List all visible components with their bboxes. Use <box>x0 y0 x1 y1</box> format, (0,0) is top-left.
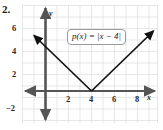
x-tick-4: 4 <box>89 95 93 104</box>
x-tick-6: 6 <box>112 95 116 104</box>
x-tick-8: 8 <box>135 95 139 104</box>
x-axis-label: x <box>147 94 151 102</box>
y-tick-6: 6 <box>12 24 16 33</box>
plot-svg <box>22 5 158 123</box>
coordinate-graph: 6 4 2 −2 2 4 6 8 y x <box>22 5 158 123</box>
figure-container: 2. <box>0 0 163 130</box>
y-tick-2: 2 <box>12 70 16 79</box>
y-tick-4: 4 <box>12 47 16 56</box>
y-tick-neg2: −2 <box>6 104 15 113</box>
x-tick-2: 2 <box>66 95 70 104</box>
y-axis-label: y <box>49 10 53 18</box>
equation-callout: p(x) = |x − 4| <box>67 29 126 45</box>
problem-number: 2. <box>2 3 10 15</box>
